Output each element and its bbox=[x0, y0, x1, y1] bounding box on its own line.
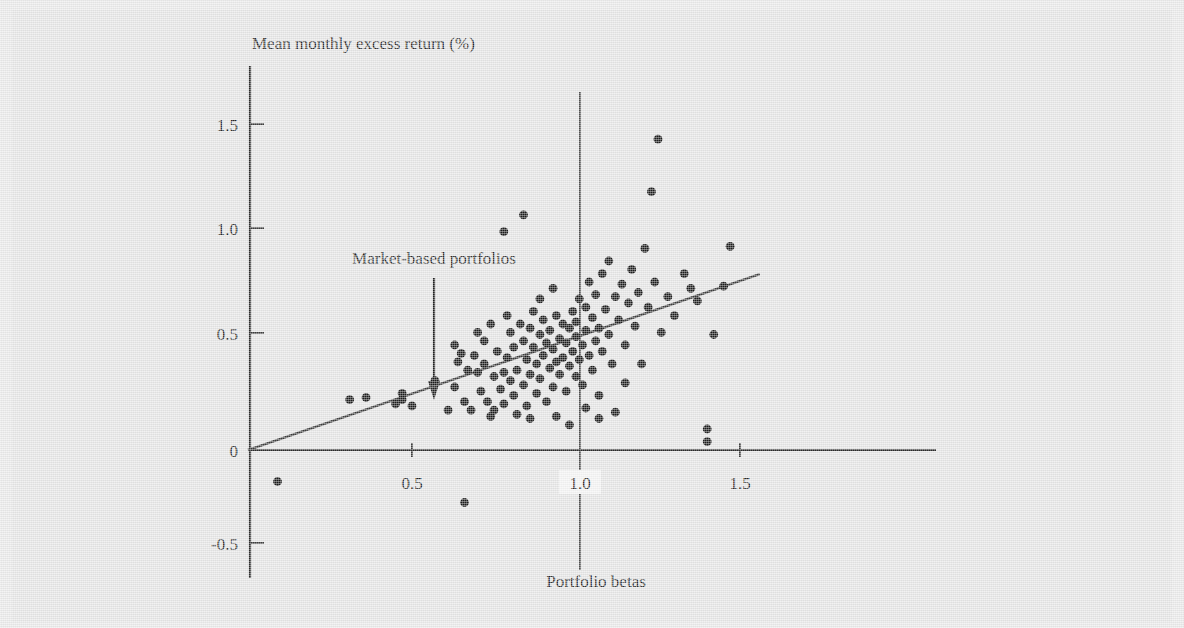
scatter-point bbox=[581, 303, 590, 312]
scatter-point bbox=[578, 381, 587, 390]
scatter-point bbox=[522, 402, 531, 411]
scatter-point bbox=[595, 414, 604, 423]
scatter-point bbox=[647, 187, 656, 196]
scatter-point bbox=[670, 311, 679, 320]
scatter-point bbox=[726, 242, 735, 251]
y-tick-label-1_5: 1.5 bbox=[217, 116, 238, 135]
scatter-plot: 1.5 1.0 0.5 0 -0.5 0.5 1.0 1.5 Mean mont… bbox=[0, 0, 1184, 628]
scatter-point bbox=[408, 402, 417, 411]
scatter-point bbox=[536, 330, 545, 339]
scatter-point bbox=[509, 343, 518, 352]
scatter-point bbox=[545, 326, 554, 335]
scatter-point bbox=[536, 294, 545, 303]
scatter-point bbox=[457, 349, 466, 358]
y-tick-label-0_5: 0.5 bbox=[217, 325, 238, 344]
scatter-point bbox=[552, 311, 561, 320]
scatter-point bbox=[519, 381, 528, 390]
scatter-point bbox=[460, 397, 469, 406]
scatter-point bbox=[644, 303, 653, 312]
scatter-point bbox=[650, 278, 659, 287]
x-tick-label-0_5: 0.5 bbox=[401, 474, 422, 493]
scatter-point bbox=[273, 477, 282, 486]
scatter-point bbox=[572, 372, 581, 381]
scatter-point bbox=[519, 336, 528, 345]
scatter-point bbox=[480, 336, 489, 345]
scatter-point bbox=[703, 425, 712, 434]
scatter-point bbox=[575, 294, 584, 303]
scatter-point bbox=[522, 355, 531, 364]
scatter-point bbox=[483, 397, 492, 406]
scatter-point bbox=[568, 307, 577, 316]
scatter-point bbox=[473, 368, 482, 377]
scatter-point bbox=[362, 393, 371, 402]
scatter-point bbox=[490, 372, 499, 381]
scatter-point bbox=[618, 280, 627, 289]
y-tick-label-0: 0 bbox=[230, 442, 239, 461]
scatter-point bbox=[460, 498, 469, 507]
x-tick-label-1_0: 1.0 bbox=[569, 474, 590, 493]
scatter-point bbox=[572, 332, 581, 341]
scatter-point bbox=[450, 383, 459, 392]
scatter-point bbox=[614, 315, 623, 324]
scatter-point bbox=[686, 284, 695, 293]
scatter-point bbox=[627, 265, 636, 274]
scatter-point bbox=[640, 244, 649, 253]
scatter-point bbox=[444, 406, 453, 415]
scatter-point bbox=[549, 284, 558, 293]
scatter-point bbox=[499, 399, 508, 408]
scatter-point bbox=[506, 328, 515, 337]
scatter-point bbox=[506, 376, 515, 385]
scatter-point bbox=[549, 345, 558, 354]
scatter-point bbox=[526, 324, 535, 333]
x-tick-label-1_5: 1.5 bbox=[729, 474, 750, 493]
scatter-point bbox=[598, 269, 607, 278]
scatter-point bbox=[621, 378, 630, 387]
scatter-point bbox=[621, 341, 630, 350]
scatter-point bbox=[595, 324, 604, 333]
scatter-point bbox=[572, 318, 581, 327]
scatter-point bbox=[499, 368, 508, 377]
scatter-point bbox=[709, 330, 718, 339]
scatter-point bbox=[604, 257, 613, 266]
scatter-point bbox=[611, 292, 620, 301]
scatter-point bbox=[503, 353, 512, 362]
scatter-point bbox=[565, 420, 574, 429]
scatter-point bbox=[657, 328, 666, 337]
scatter-point bbox=[558, 353, 567, 362]
scatter-point bbox=[486, 320, 495, 329]
scatter-point bbox=[539, 351, 548, 360]
scatter-point bbox=[562, 339, 571, 348]
scatter-point bbox=[463, 366, 472, 375]
scatter-point bbox=[503, 311, 512, 320]
figure-page: 1.5 1.0 0.5 0 -0.5 0.5 1.0 1.5 Mean mont… bbox=[0, 0, 1184, 628]
scatter-point bbox=[539, 315, 548, 324]
scatter-point bbox=[532, 360, 541, 369]
scatter-point bbox=[467, 406, 476, 415]
scatter-point bbox=[601, 305, 610, 314]
scatter-point bbox=[598, 347, 607, 356]
scatter-point bbox=[693, 297, 702, 306]
scatter-point bbox=[526, 414, 535, 423]
scatter-point bbox=[568, 347, 577, 356]
scatter-point bbox=[575, 355, 584, 364]
scatter-point bbox=[470, 351, 479, 360]
scatter-point bbox=[562, 387, 571, 396]
x-axis-title: Portfolio betas bbox=[546, 572, 646, 591]
scatter-point bbox=[493, 347, 502, 356]
scatter-point bbox=[431, 376, 440, 385]
scatter-point bbox=[454, 357, 463, 366]
scatter-point bbox=[585, 278, 594, 287]
scatter-point bbox=[555, 370, 564, 379]
scatter-point bbox=[499, 227, 508, 236]
scatter-point bbox=[519, 210, 528, 219]
scatter-point bbox=[536, 374, 545, 383]
scatter-point bbox=[542, 397, 551, 406]
scatter-point bbox=[476, 387, 485, 396]
scatter-point bbox=[529, 343, 538, 352]
scatter-point bbox=[631, 322, 640, 331]
scatter-point bbox=[549, 383, 558, 392]
scatter-point bbox=[654, 135, 663, 144]
y-tick-label-1_0: 1.0 bbox=[217, 220, 238, 239]
scatter-point bbox=[486, 412, 495, 421]
scatter-point bbox=[526, 370, 535, 379]
